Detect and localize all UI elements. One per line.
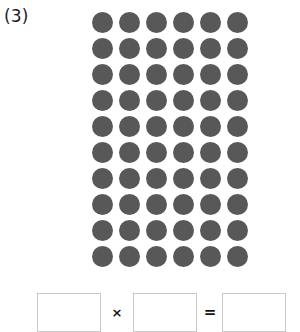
array-dot bbox=[119, 38, 140, 59]
array-dot bbox=[146, 142, 167, 163]
array-dot bbox=[146, 168, 167, 189]
array-dot bbox=[119, 116, 140, 137]
array-dot bbox=[173, 194, 194, 215]
array-dot bbox=[146, 246, 167, 267]
array-dot bbox=[119, 246, 140, 267]
array-dot bbox=[146, 194, 167, 215]
array-dot bbox=[173, 220, 194, 241]
array-dot bbox=[227, 194, 248, 215]
array-dot bbox=[146, 38, 167, 59]
array-dot bbox=[92, 90, 113, 111]
array-dot bbox=[173, 64, 194, 85]
array-dot bbox=[227, 168, 248, 189]
array-dot bbox=[173, 142, 194, 163]
array-dot bbox=[227, 90, 248, 111]
array-dot bbox=[200, 38, 221, 59]
array-dot bbox=[200, 168, 221, 189]
factor-2-answer-box[interactable] bbox=[133, 293, 197, 332]
multiply-operator-icon: × bbox=[104, 293, 130, 332]
array-dot bbox=[119, 142, 140, 163]
array-dot bbox=[119, 64, 140, 85]
array-dot bbox=[146, 220, 167, 241]
array-dot bbox=[146, 64, 167, 85]
array-dot bbox=[92, 116, 113, 137]
array-dot bbox=[200, 220, 221, 241]
array-dot bbox=[227, 64, 248, 85]
product-answer-box[interactable] bbox=[222, 293, 286, 332]
array-dot bbox=[119, 12, 140, 33]
array-dot bbox=[173, 246, 194, 267]
array-dot bbox=[119, 194, 140, 215]
worksheet-problem: (3) × = bbox=[0, 0, 300, 332]
array-dot bbox=[119, 90, 140, 111]
array-dot bbox=[227, 142, 248, 163]
array-dot bbox=[92, 64, 113, 85]
array-dot bbox=[200, 142, 221, 163]
problem-number-label: (3) bbox=[4, 8, 29, 25]
array-dot bbox=[92, 142, 113, 163]
array-dot bbox=[119, 168, 140, 189]
array-dot bbox=[146, 12, 167, 33]
equation-row: × = bbox=[0, 293, 300, 332]
array-dot bbox=[146, 90, 167, 111]
array-dot bbox=[92, 12, 113, 33]
array-dot bbox=[227, 38, 248, 59]
array-dot bbox=[200, 64, 221, 85]
array-dot bbox=[200, 194, 221, 215]
array-dot bbox=[92, 246, 113, 267]
array-dot bbox=[227, 12, 248, 33]
array-dot bbox=[227, 246, 248, 267]
dot-array-grid bbox=[89, 9, 251, 269]
array-dot bbox=[173, 116, 194, 137]
array-dot bbox=[227, 116, 248, 137]
factor-1-answer-box[interactable] bbox=[37, 293, 101, 332]
array-dot bbox=[92, 220, 113, 241]
array-dot bbox=[146, 116, 167, 137]
array-dot bbox=[200, 246, 221, 267]
array-dot bbox=[173, 168, 194, 189]
array-dot bbox=[173, 12, 194, 33]
array-dot bbox=[200, 116, 221, 137]
array-dot bbox=[200, 90, 221, 111]
equals-operator-icon: = bbox=[200, 293, 220, 332]
array-dot bbox=[227, 220, 248, 241]
array-dot bbox=[92, 194, 113, 215]
array-dot bbox=[200, 12, 221, 33]
array-dot bbox=[92, 38, 113, 59]
array-dot bbox=[92, 168, 113, 189]
array-dot bbox=[119, 220, 140, 241]
array-dot bbox=[173, 38, 194, 59]
array-dot bbox=[173, 90, 194, 111]
